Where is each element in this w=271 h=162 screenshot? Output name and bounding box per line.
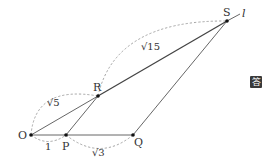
geometry-diagram: O P Q R S l 1 √3 √5 √15 — [0, 0, 271, 162]
label-S: S — [223, 6, 231, 19]
point-R — [96, 94, 100, 98]
label-P: P — [62, 140, 70, 153]
measure-PQ: √3 — [92, 147, 105, 158]
point-P — [64, 133, 68, 137]
label-line-l: l — [242, 7, 246, 20]
segment-QS — [133, 21, 227, 135]
measure-RS: √15 — [141, 41, 160, 52]
line-l-RS — [98, 21, 227, 96]
measure-OP: 1 — [45, 141, 51, 152]
label-R: R — [93, 81, 102, 94]
segment-PR — [66, 96, 98, 135]
measure-OR: √5 — [47, 97, 60, 108]
point-O — [29, 133, 33, 137]
point-S — [225, 19, 229, 23]
label-Q: Q — [134, 136, 143, 149]
segment-OR — [31, 96, 98, 135]
label-O: O — [18, 129, 27, 142]
answer-badge-icon: 答 — [250, 76, 262, 88]
